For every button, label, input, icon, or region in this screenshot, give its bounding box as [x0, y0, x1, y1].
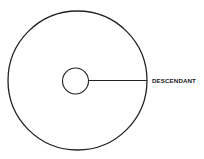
descendant-diagram: DESCENDANT [0, 0, 204, 159]
descendant-label: DESCENDANT [152, 77, 196, 84]
inner-circle [63, 68, 89, 94]
